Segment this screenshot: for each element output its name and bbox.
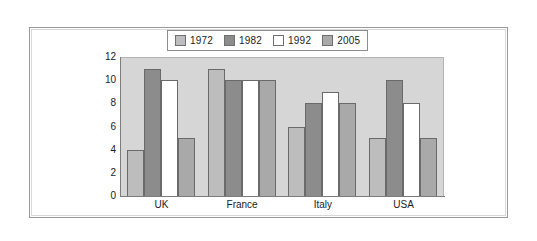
legend-swatch-icon <box>322 35 333 46</box>
bar-italy-1992 <box>322 92 339 196</box>
chart-container: 121086420 UKFranceItalyUSA <box>92 57 452 212</box>
bar-italy-1982 <box>305 103 322 196</box>
y-tick-label: 12 <box>105 52 116 62</box>
bar-france-1982 <box>225 80 242 196</box>
chart-legend: 1972198219922005 <box>167 30 368 51</box>
bar-italy-1972 <box>288 127 305 197</box>
bar-group-italy <box>282 58 363 196</box>
bar-italy-2005 <box>339 103 356 196</box>
y-tick-label: 4 <box>110 145 116 155</box>
bar-france-1972 <box>208 69 225 196</box>
legend-swatch-icon <box>175 35 186 46</box>
chart-page: 1972198219922005 121086420 UKFranceItaly… <box>0 0 537 241</box>
legend-item-1982: 1982 <box>224 35 262 46</box>
bar-group-usa <box>363 58 444 196</box>
bar-uk-1982 <box>144 69 161 196</box>
x-category-label-france: France <box>202 199 283 213</box>
bar-uk-2005 <box>178 138 195 196</box>
y-tick-label: 0 <box>110 191 116 201</box>
x-category-label-usa: USA <box>363 199 444 213</box>
legend-item-label: 1992 <box>288 36 311 46</box>
bar-uk-1992 <box>161 80 178 196</box>
y-axis-tick-labels: 121086420 <box>92 57 116 196</box>
y-tick-label: 6 <box>110 122 116 132</box>
legend-item-1972: 1972 <box>175 35 213 46</box>
bar-usa-2005 <box>420 138 437 196</box>
y-tick-label: 2 <box>110 168 116 178</box>
legend-item-1992: 1992 <box>273 35 311 46</box>
bar-uk-1972 <box>127 150 144 196</box>
plot-area <box>121 57 444 196</box>
legend-item-label: 1972 <box>190 36 213 46</box>
y-tick-label: 8 <box>110 98 116 108</box>
bar-france-1992 <box>242 80 259 196</box>
bar-group-uk <box>121 58 202 196</box>
legend-swatch-icon <box>273 35 284 46</box>
x-axis-line <box>120 196 445 197</box>
legend-item-label: 1982 <box>239 36 262 46</box>
legend-item-label: 2005 <box>337 36 360 46</box>
legend-item-2005: 2005 <box>322 35 360 46</box>
bar-group-france <box>202 58 283 196</box>
legend-swatch-icon <box>224 35 235 46</box>
bar-usa-1972 <box>369 138 386 196</box>
x-category-label-italy: Italy <box>283 199 364 213</box>
bar-usa-1982 <box>386 80 403 196</box>
bar-france-2005 <box>259 80 276 196</box>
x-axis-category-labels: UKFranceItalyUSA <box>121 199 444 213</box>
bar-usa-1992 <box>403 103 420 196</box>
x-category-label-uk: UK <box>121 199 202 213</box>
y-tick-label: 10 <box>105 75 116 85</box>
